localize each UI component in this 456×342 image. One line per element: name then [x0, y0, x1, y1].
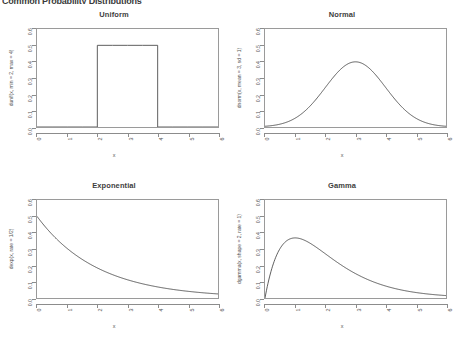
x-tick: [447, 133, 448, 137]
x-axis-normal: 0123456: [264, 133, 447, 141]
y-tick-label: 0.3: [255, 249, 261, 256]
y-tick-label: 0.0: [27, 128, 33, 135]
y-tick-label: 0.1: [255, 282, 261, 289]
panel-title-gamma: Gamma: [228, 181, 456, 190]
x-tick: [417, 304, 418, 308]
x-tick: [128, 304, 129, 308]
x-tick: [386, 304, 387, 308]
panel-exponential: Exponential dexp(x, rate = 1/2) 0.00.10.…: [0, 171, 228, 342]
x-tick: [97, 304, 98, 308]
y-axis-title-gamma: dgamma(x, shape = 2, rate = 1): [234, 199, 244, 299]
panel-gamma: Gamma dgamma(x, shape = 2, rate = 1) 0.0…: [228, 171, 456, 342]
x-tick: [36, 133, 37, 137]
y-axis-title-normal: dnorm(x, mean = 3, sd = 1): [234, 28, 244, 128]
y-tick-label: 0.5: [255, 216, 261, 223]
plot-area-uniform: [36, 28, 219, 128]
y-tick-label: 0.4: [27, 61, 33, 68]
density-curve: [37, 45, 218, 127]
y-tick-label: 0.3: [27, 78, 33, 85]
x-tick: [97, 133, 98, 137]
density-curve: [37, 216, 218, 294]
y-tick-label: 0.4: [255, 232, 261, 239]
y-tick-label: 0.2: [255, 95, 261, 102]
y-tick-label: 0.1: [27, 282, 33, 289]
x-tick-label: 6: [447, 138, 453, 141]
panel-uniform: Uniform dunif(x, min = 2, max = 4) 0.00.…: [0, 0, 228, 171]
x-tick-label: 6: [447, 309, 453, 312]
x-tick-label: 5: [189, 138, 195, 141]
x-tick: [219, 133, 220, 137]
x-tick: [67, 304, 68, 308]
x-tick: [356, 133, 357, 137]
x-axis-title-exponential: x: [0, 323, 228, 329]
x-tick-label: 0: [264, 309, 270, 312]
x-tick: [36, 304, 37, 308]
y-tick-label: 0.0: [27, 299, 33, 306]
y-axis-title-exponential: dexp(x, rate = 1/2): [6, 199, 16, 299]
x-tick-label: 1: [295, 309, 301, 312]
x-tick: [158, 133, 159, 137]
x-tick-label: 5: [189, 309, 195, 312]
x-tick-label: 2: [97, 138, 103, 141]
x-tick: [219, 304, 220, 308]
y-tick-label: 0.0: [255, 299, 261, 306]
x-tick-label: 6: [219, 309, 225, 312]
panel-title-exponential: Exponential: [0, 181, 228, 190]
x-tick: [128, 133, 129, 137]
series-uniform: [37, 29, 218, 127]
x-axis-exponential: 0123456: [36, 304, 219, 312]
x-tick-label: 0: [36, 309, 42, 312]
panel-title-uniform: Uniform: [0, 10, 228, 19]
x-tick: [386, 133, 387, 137]
x-tick-label: 4: [386, 138, 392, 141]
x-tick-label: 2: [325, 138, 331, 141]
density-curve: [265, 238, 446, 298]
x-tick-label: 5: [417, 138, 423, 141]
plot-area-gamma: [264, 199, 447, 299]
x-tick-label: 3: [356, 309, 362, 312]
plot-area-exponential: [36, 199, 219, 299]
density-curve: [265, 62, 446, 126]
y-tick-label: 0.1: [255, 111, 261, 118]
series-gamma: [265, 200, 446, 298]
x-tick: [295, 133, 296, 137]
x-tick: [264, 133, 265, 137]
x-tick-label: 1: [295, 138, 301, 141]
x-tick-label: 2: [325, 309, 331, 312]
panel-title-normal: Normal: [228, 10, 456, 19]
x-tick-label: 3: [356, 138, 362, 141]
y-tick-label: 0.3: [27, 249, 33, 256]
plot-canvas: Common Probability Distributions Uniform…: [0, 0, 456, 342]
x-axis-title-normal: x: [228, 152, 456, 158]
y-tick-label: 0.0: [255, 128, 261, 135]
x-tick-label: 3: [128, 309, 134, 312]
x-tick: [325, 304, 326, 308]
y-tick-label: 0.6: [255, 28, 261, 35]
y-tick-label: 0.2: [255, 266, 261, 273]
x-tick-label: 6: [219, 138, 225, 141]
x-tick-label: 2: [97, 309, 103, 312]
y-tick-label: 0.5: [27, 45, 33, 52]
x-tick: [325, 133, 326, 137]
x-tick: [189, 133, 190, 137]
x-tick-label: 4: [158, 309, 164, 312]
y-tick-label: 0.2: [27, 95, 33, 102]
y-tick-label: 0.6: [255, 199, 261, 206]
x-tick: [158, 304, 159, 308]
x-tick-label: 3: [128, 138, 134, 141]
x-tick-label: 1: [67, 309, 73, 312]
plot-area-normal: [264, 28, 447, 128]
x-tick: [417, 133, 418, 137]
series-exponential: [37, 200, 218, 298]
y-axis-title-uniform: dunif(x, min = 2, max = 4): [6, 28, 16, 128]
y-tick-label: 0.5: [255, 45, 261, 52]
x-tick-label: 0: [36, 138, 42, 141]
x-axis-uniform: 0123456: [36, 133, 219, 141]
y-tick-label: 0.6: [27, 199, 33, 206]
x-tick: [264, 304, 265, 308]
x-tick-label: 0: [264, 138, 270, 141]
x-tick-label: 1: [67, 138, 73, 141]
x-axis-title-uniform: x: [0, 152, 228, 158]
y-tick-label: 0.5: [27, 216, 33, 223]
y-tick-label: 0.6: [27, 28, 33, 35]
